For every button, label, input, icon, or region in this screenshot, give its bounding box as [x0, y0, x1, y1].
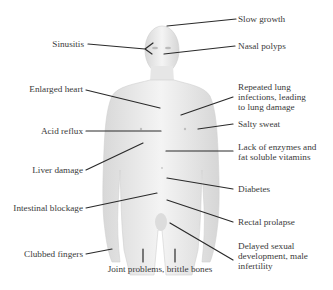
- line-clubbed-fingers: [86, 249, 112, 254]
- label-acid-reflux: Acid reflux: [41, 126, 83, 136]
- label-clubbed-fingers: Clubbed fingers: [24, 249, 83, 259]
- line-liver-damage: [86, 143, 143, 170]
- label-joint-problems: Joint problems, brittle bones: [100, 264, 220, 274]
- line-nasal-polyps: [164, 46, 235, 54]
- label-nasal-polyps: Nasal polyps: [238, 41, 286, 51]
- line-slow-growth: [167, 19, 236, 26]
- label-liver-damage: Liver damage: [32, 165, 83, 175]
- line-enlarged-heart: [86, 90, 160, 108]
- line-delayed-sexual: [170, 223, 233, 260]
- label-slow-growth: Slow growth: [238, 14, 285, 24]
- line-rectal-prolapse: [167, 200, 233, 222]
- label-enlarged-heart: Enlarged heart: [29, 84, 83, 94]
- line-diabetes: [167, 178, 233, 189]
- label-lack-of-enzymes: Lack of enzymes and fat soluble vitamins: [238, 142, 316, 162]
- label-repeated-lung-infections: Repeated lung infections, leading to lun…: [238, 82, 306, 112]
- line-sinusitis: [88, 43, 153, 54]
- label-diabetes: Diabetes: [238, 184, 270, 194]
- label-intestinal-blockage: Intestinal blockage: [13, 203, 83, 213]
- label-rectal-prolapse: Rectal prolapse: [238, 217, 295, 227]
- label-delayed-sexual-development: Delayed sexual development, male inferti…: [238, 241, 308, 271]
- line-salty-sweat: [198, 124, 233, 129]
- line-repeated-lung: [181, 97, 233, 115]
- cystic-fibrosis-body-diagram: Slow growth Sinusitis Nasal polyps Enlar…: [0, 0, 333, 290]
- label-salty-sweat: Salty sweat: [238, 119, 280, 129]
- label-sinusitis: Sinusitis: [52, 39, 84, 49]
- line-intestinal-blockage: [86, 193, 157, 208]
